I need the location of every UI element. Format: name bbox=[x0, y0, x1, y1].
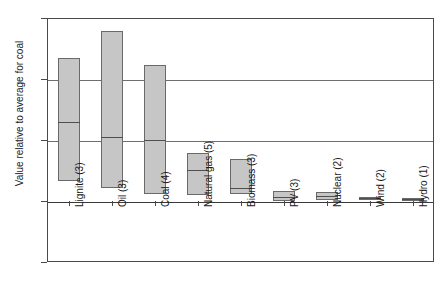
x-tick-mark-7 bbox=[370, 201, 371, 206]
x-axis-label-lignite: Lignite (3) bbox=[74, 163, 85, 207]
x-tick-mark-1 bbox=[112, 201, 113, 206]
x-axis-label-naturalgas: Natural gas (5) bbox=[203, 141, 214, 207]
y-tick-mark--1 bbox=[41, 262, 47, 263]
median-line-lignite bbox=[58, 122, 80, 123]
box-oil bbox=[101, 31, 123, 188]
x-axis-label-coal: Coal (4) bbox=[160, 171, 171, 207]
median-line-oil bbox=[101, 137, 123, 138]
x-tick-mark-3 bbox=[198, 201, 199, 206]
x-tick-mark-5 bbox=[284, 201, 285, 206]
x-axis-label-nuclear: Nuclear (2) bbox=[332, 158, 343, 207]
median-line-coal bbox=[144, 140, 166, 141]
x-tick-mark-6 bbox=[327, 201, 328, 206]
x-axis-label-oil: Oil (3) bbox=[117, 180, 128, 207]
x-tick-mark-2 bbox=[155, 201, 156, 206]
chart-container: Value relative to average for coal 3210-… bbox=[0, 0, 446, 288]
x-axis-label-pv: PV (3) bbox=[289, 179, 300, 207]
y-tick-mark-2 bbox=[41, 79, 47, 80]
y-axis-title: Value relative to average for coal bbox=[14, 9, 25, 219]
y-tick-mark-1 bbox=[41, 140, 47, 141]
x-axis-label-hydro: Hydro (1) bbox=[418, 165, 429, 207]
x-axis-label-biomass: Biomass (3) bbox=[246, 154, 257, 207]
x-tick-mark-0 bbox=[69, 201, 70, 206]
y-tick-mark-0 bbox=[41, 201, 47, 202]
x-tick-mark-8 bbox=[413, 201, 414, 206]
x-tick-mark-4 bbox=[241, 201, 242, 206]
y-tick-mark-3 bbox=[41, 18, 47, 19]
x-axis-label-wind: Wind (2) bbox=[375, 169, 386, 207]
